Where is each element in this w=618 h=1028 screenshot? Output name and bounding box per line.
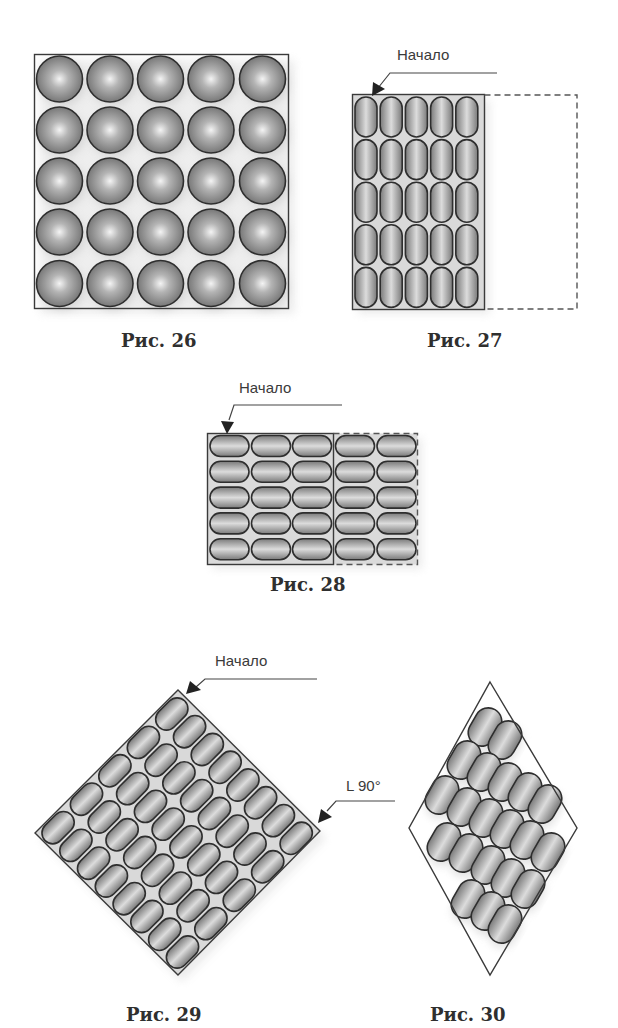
start-label: Начало — [239, 379, 291, 396]
capsule — [456, 225, 478, 265]
capsule — [293, 513, 332, 534]
capsule — [336, 513, 375, 534]
sphere — [138, 209, 184, 255]
figure-26: Рис. 26 — [35, 55, 296, 352]
figure-27: Начало Рис. 27 — [353, 46, 578, 351]
figure-30: Рис. 30 — [409, 682, 577, 1025]
start-label: Начало — [397, 46, 449, 63]
capsule — [377, 513, 416, 534]
angle-label: L 90° — [346, 777, 381, 794]
capsule — [336, 461, 375, 482]
capsule — [293, 461, 332, 482]
sphere-grid — [37, 56, 289, 311]
sphere — [37, 56, 83, 102]
sphere — [37, 261, 83, 307]
capsule — [252, 436, 291, 457]
capsule — [380, 182, 402, 222]
capsule — [380, 267, 402, 307]
leader-line — [327, 801, 395, 811]
capsule — [355, 267, 377, 307]
capsule — [405, 267, 427, 307]
capsule-cluster — [420, 703, 570, 953]
capsule — [405, 140, 427, 180]
sphere — [188, 158, 234, 204]
capsule — [380, 97, 402, 137]
capsule — [380, 140, 402, 180]
capsule — [456, 182, 478, 222]
sphere — [87, 107, 133, 153]
sphere — [240, 56, 286, 102]
sphere — [138, 158, 184, 204]
figure-caption: Рис. 28 — [270, 574, 345, 595]
capsule — [355, 225, 377, 265]
capsule — [405, 225, 427, 265]
capsule-grid — [355, 97, 478, 307]
figure-29: Начало L 90° Рис. 29 — [35, 652, 395, 1025]
capsule — [252, 461, 291, 482]
capsule — [355, 140, 377, 180]
capsule — [336, 436, 375, 457]
capsule — [355, 97, 377, 137]
capsule — [431, 225, 453, 265]
capsule — [456, 97, 478, 137]
capsule-grid — [210, 436, 416, 560]
leader-line — [378, 73, 497, 88]
arrow-icon — [318, 809, 332, 823]
diagram-canvas: Рис. 26 Начало Рис. 27 Начало Рис. 28 На… — [0, 0, 618, 1028]
capsule — [336, 487, 375, 508]
sphere — [138, 261, 184, 307]
capsule — [377, 487, 416, 508]
sphere — [188, 107, 234, 153]
sphere — [188, 261, 234, 307]
capsule — [355, 182, 377, 222]
leader-line — [229, 405, 342, 420]
capsule — [456, 140, 478, 180]
capsule — [377, 436, 416, 457]
capsule — [405, 97, 427, 137]
figure-28: Начало Рис. 28 — [208, 379, 423, 595]
sphere — [138, 107, 184, 153]
sphere — [240, 107, 286, 153]
capsule — [210, 436, 249, 457]
figure-caption: Рис. 26 — [121, 330, 196, 351]
sphere — [240, 261, 286, 307]
sphere — [37, 107, 83, 153]
sphere — [37, 209, 83, 255]
capsule — [380, 225, 402, 265]
sphere — [188, 209, 234, 255]
sphere — [87, 158, 133, 204]
sphere — [87, 56, 133, 102]
capsule — [210, 539, 249, 560]
capsule — [210, 487, 249, 508]
figure-caption: Рис. 30 — [430, 1004, 505, 1025]
capsule — [293, 487, 332, 508]
capsule — [293, 539, 332, 560]
capsule — [252, 513, 291, 534]
sphere — [87, 261, 133, 307]
capsule — [210, 513, 249, 534]
capsule — [431, 140, 453, 180]
capsule — [431, 97, 453, 137]
figure-caption: Рис. 27 — [427, 330, 502, 351]
sphere — [138, 56, 184, 102]
arrow-icon — [186, 681, 201, 694]
capsule — [377, 461, 416, 482]
sphere — [188, 56, 234, 102]
capsule — [252, 539, 291, 560]
dashed-extension — [485, 95, 578, 309]
capsule — [377, 539, 416, 560]
capsule — [405, 182, 427, 222]
capsule — [456, 267, 478, 307]
capsule — [336, 539, 375, 560]
start-label: Начало — [215, 652, 267, 669]
capsule — [293, 436, 332, 457]
capsule — [210, 461, 249, 482]
sphere — [240, 158, 286, 204]
sphere — [37, 158, 83, 204]
sphere — [240, 209, 286, 255]
capsule — [252, 487, 291, 508]
figure-caption: Рис. 29 — [126, 1004, 201, 1025]
leader-line — [196, 679, 317, 687]
sphere — [87, 209, 133, 255]
arrow-icon — [221, 421, 234, 434]
